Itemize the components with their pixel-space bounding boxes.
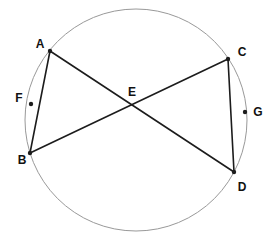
point-dot-B: [28, 151, 32, 155]
geometry-diagram: ABCDEFG: [0, 0, 273, 242]
segment-BC: [30, 59, 228, 153]
point-label-D: D: [238, 180, 247, 194]
point-dot-F: [29, 102, 33, 106]
point-dot-C: [226, 57, 230, 61]
point-dot-A: [48, 49, 52, 53]
segment-AB: [30, 51, 50, 153]
point-label-A: A: [36, 37, 45, 51]
point-label-C: C: [238, 45, 247, 59]
point-label-G: G: [253, 105, 262, 119]
point-dot-G: [243, 110, 247, 114]
point-label-E: E: [128, 85, 136, 99]
segment-CD: [228, 59, 234, 172]
geometry-figure-canvas: ABCDEFG: [0, 0, 273, 242]
circle-outline: [25, 9, 247, 231]
point-label-B: B: [18, 153, 27, 167]
point-label-F: F: [15, 91, 22, 105]
point-dot-D: [232, 170, 236, 174]
